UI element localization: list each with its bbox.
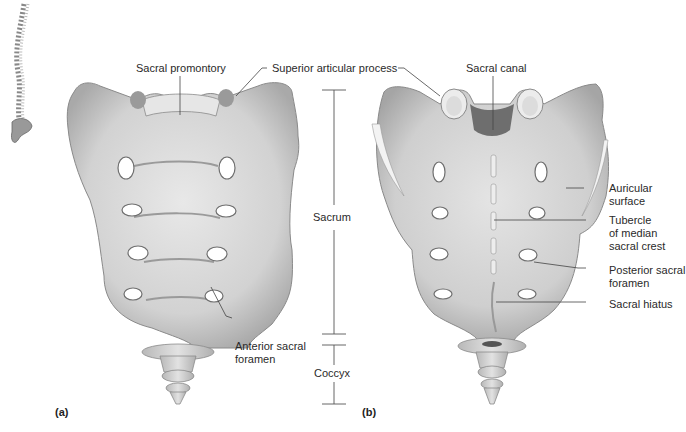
label-auricular-surface: Auricular surface xyxy=(609,182,652,208)
sacrum-anterior-view xyxy=(67,83,299,348)
label-coccyx: Coccyx xyxy=(314,367,350,380)
label-superior-articular-process: Superior articular process xyxy=(272,62,397,75)
coccyx-anterior-view xyxy=(142,344,214,404)
label-sacral-canal: Sacral canal xyxy=(466,62,527,75)
label-sacral-promontory: Sacral promontory xyxy=(136,62,226,75)
label-sacral-hiatus: Sacral hiatus xyxy=(609,298,673,311)
panel-tag-a: (a) xyxy=(55,406,68,418)
coccyx-posterior-view xyxy=(458,338,526,404)
label-posterior-sacral-foramen: Posterior sacral foramen xyxy=(609,264,685,290)
label-sacrum: Sacrum xyxy=(313,211,351,224)
label-anterior-sacral-foramen: Anterior sacral foramen xyxy=(235,340,306,366)
panel-tag-b: (b) xyxy=(362,406,376,418)
label-tubercle-median-sacral-crest: Tubercle of median sacral crest xyxy=(609,214,665,253)
spine-thumbnail-icon xyxy=(11,4,32,142)
extent-bracket xyxy=(322,90,346,404)
